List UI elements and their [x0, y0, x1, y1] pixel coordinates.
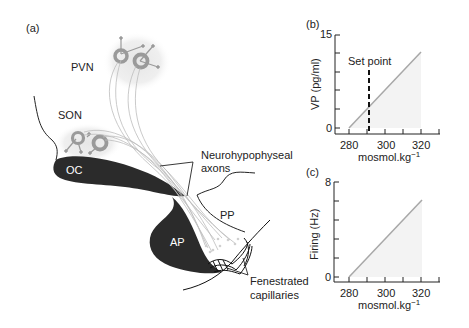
firing-ytick-0: 0	[325, 271, 331, 283]
axon-terminals	[205, 238, 240, 254]
ap-label: AP	[170, 236, 185, 248]
panel-b-label: (b)	[306, 18, 319, 30]
son-label: SON	[58, 109, 82, 121]
pp-stalk-outline	[197, 172, 255, 195]
vp-xtick-300: 300	[377, 139, 395, 151]
vp-ytick-15: 15	[320, 28, 332, 40]
panel-c-chart: (c) 8 0 280 300 320 mosmol.kg−1 Firing (…	[306, 166, 440, 311]
panel-c-label: (c)	[306, 166, 319, 178]
pvn-label: PVN	[71, 61, 94, 73]
firing-ylabel: Firing (Hz)	[308, 209, 320, 260]
set-point-label: Set point	[348, 55, 391, 67]
capillaries-label-line2: capillaries	[250, 289, 299, 301]
pp-label: PP	[220, 209, 235, 221]
firing-ytick-8: 8	[325, 176, 331, 188]
panel-a-label: (a)	[26, 22, 39, 34]
vp-ytick-0: 0	[326, 122, 332, 134]
hypothalamus-outline	[34, 96, 57, 160]
panel-a: (a) PVN SO	[26, 22, 309, 301]
vp-xtick-280: 280	[340, 139, 358, 151]
axons-label-line1: Neurohypophyseal	[201, 149, 293, 161]
oc-label: OC	[66, 164, 83, 176]
firing-xlabel: mosmol.kg−1	[358, 298, 421, 311]
firing-xtick-300: 300	[377, 287, 395, 299]
capillaries-label-line1: Fenestrated	[250, 275, 309, 287]
vp-xlabel: mosmol.kg−1	[358, 150, 421, 163]
vp-ylabel: VP (pg/ml)	[309, 58, 321, 110]
firing-xtick-280: 280	[340, 287, 358, 299]
panel-b-chart: (b) Set point 15 0 280 300 320 mosmol.kg…	[306, 18, 440, 163]
figure-canvas: (a) PVN SO	[0, 0, 469, 328]
son-region	[54, 123, 122, 163]
axons-label-line2: axons	[201, 162, 231, 174]
